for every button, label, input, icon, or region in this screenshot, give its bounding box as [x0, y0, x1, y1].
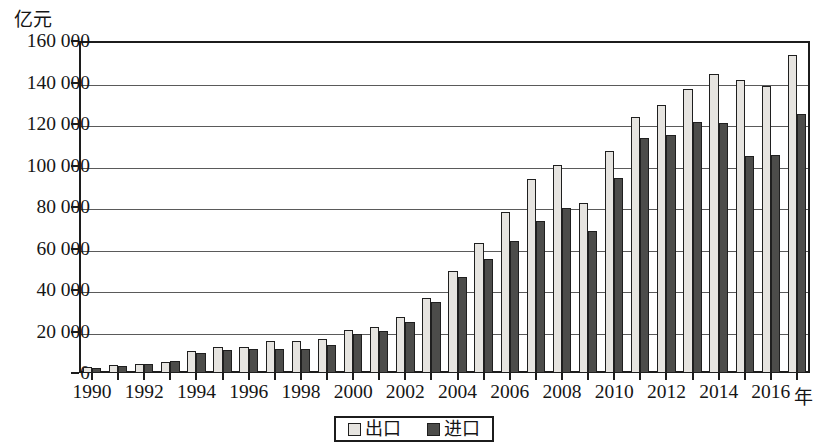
bar-export[interactable] [266, 341, 275, 373]
bar-export[interactable] [474, 243, 483, 373]
bar-import[interactable] [797, 114, 806, 373]
x-axis-tick-mark [509, 373, 511, 380]
y-axis-tick-mark [71, 206, 79, 208]
bar-group [396, 41, 414, 373]
bar-group [344, 41, 362, 373]
bar-export[interactable] [448, 271, 457, 373]
bar-import[interactable] [405, 322, 414, 373]
x-axis-tick-mark [665, 373, 667, 380]
bar-export[interactable] [683, 89, 692, 373]
bar-group [422, 41, 440, 373]
bar-import[interactable] [353, 334, 362, 373]
bar-export[interactable] [501, 212, 510, 373]
bar-import[interactable] [693, 122, 702, 373]
bar-import[interactable] [118, 366, 127, 373]
x-axis-tick-label: 2012 [647, 382, 686, 402]
bar-group [109, 41, 127, 373]
bar-export[interactable] [370, 327, 379, 373]
x-axis-tick-mark [744, 373, 746, 380]
bar-export[interactable] [605, 151, 614, 373]
bar-group [683, 41, 701, 373]
bar-import[interactable] [223, 350, 232, 373]
x-axis-tick-label: 2006 [490, 382, 529, 402]
x-axis-tick-mark [457, 373, 459, 380]
bar-group [553, 41, 571, 373]
bar-export[interactable] [396, 317, 405, 373]
y-axis-tick-mark [71, 165, 79, 167]
bar-import[interactable] [536, 221, 545, 373]
bar-export[interactable] [657, 105, 666, 374]
x-axis-tick-mark [91, 373, 93, 380]
bar-export[interactable] [135, 364, 144, 373]
legend-label-import: 进口 [444, 420, 480, 438]
bar-export[interactable] [239, 347, 248, 373]
bar-group [527, 41, 545, 373]
bar-import[interactable] [196, 353, 205, 373]
x-axis-tick-label: 2000 [334, 382, 373, 402]
bar-import[interactable] [275, 349, 284, 373]
y-axis-tick-mark [71, 82, 79, 84]
bar-import[interactable] [92, 368, 101, 373]
bar-import[interactable] [666, 135, 675, 373]
bar-group [762, 41, 780, 373]
bar-export[interactable] [109, 365, 118, 373]
bar-group [501, 41, 519, 373]
bar-import[interactable] [562, 208, 571, 373]
x-axis-tick-mark [718, 373, 720, 380]
x-axis-tick-mark [326, 373, 328, 380]
bar-import[interactable] [431, 302, 440, 373]
y-axis-tick-mark [71, 289, 79, 291]
bar-import[interactable] [458, 277, 467, 373]
bar-import[interactable] [771, 155, 780, 373]
bar-group [135, 41, 153, 373]
bar-import[interactable] [144, 364, 153, 373]
bars-layer [79, 41, 810, 373]
bar-export[interactable] [422, 298, 431, 373]
bar-export[interactable] [318, 339, 327, 373]
bar-export[interactable] [292, 341, 301, 373]
bar-export[interactable] [161, 362, 170, 373]
bar-export[interactable] [631, 117, 640, 373]
chart-legend: 出口 进口 [334, 416, 494, 442]
bar-export[interactable] [788, 55, 797, 373]
bar-export[interactable] [579, 203, 588, 373]
bar-group [579, 41, 597, 373]
bar-group [213, 41, 231, 373]
bar-group [605, 41, 623, 373]
x-axis-tick-mark [248, 373, 250, 380]
bar-export[interactable] [213, 347, 222, 373]
bar-group [657, 41, 675, 373]
bar-export[interactable] [762, 86, 771, 373]
x-axis-tick-mark [692, 373, 694, 380]
bar-import[interactable] [588, 231, 597, 373]
y-axis-tick-mark [71, 331, 79, 333]
bar-export[interactable] [553, 165, 562, 373]
x-axis-tick-label: 2002 [386, 382, 425, 402]
x-axis-tick-mark [639, 373, 641, 380]
bar-import[interactable] [301, 349, 310, 373]
bar-group [266, 41, 284, 373]
bar-export[interactable] [344, 330, 353, 373]
bar-import[interactable] [719, 123, 728, 373]
bar-import[interactable] [510, 241, 519, 373]
bar-import[interactable] [745, 156, 754, 373]
x-axis-tick-mark [195, 373, 197, 380]
legend-label-export: 出口 [365, 420, 401, 438]
bar-import[interactable] [249, 349, 258, 373]
bar-export[interactable] [736, 80, 745, 373]
bar-import[interactable] [379, 331, 388, 373]
bar-export[interactable] [709, 74, 718, 373]
y-axis-tick-mark [71, 40, 79, 42]
bar-export[interactable] [527, 179, 536, 373]
legend-item-export[interactable]: 出口 [348, 420, 401, 438]
bar-import[interactable] [327, 345, 336, 373]
bar-import[interactable] [170, 361, 179, 373]
legend-item-import[interactable]: 进口 [427, 420, 480, 438]
bar-import[interactable] [640, 138, 649, 373]
bar-import[interactable] [484, 259, 493, 373]
bar-group [239, 41, 257, 373]
x-axis-tick-mark [535, 373, 537, 380]
x-axis-tick-label: 2010 [595, 382, 634, 402]
bar-import[interactable] [614, 178, 623, 373]
bar-export[interactable] [187, 351, 196, 373]
